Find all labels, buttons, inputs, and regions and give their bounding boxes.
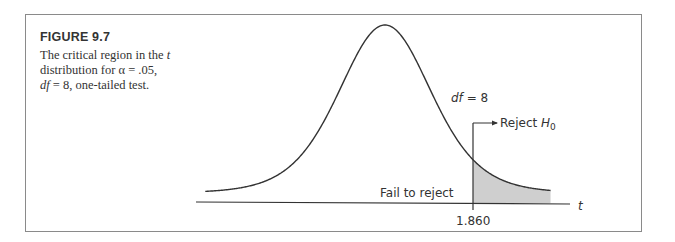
reject-h0-label: Reject H0 — [500, 116, 556, 132]
critical-value-label: 1.860 — [456, 214, 490, 228]
df-label: df = 8 — [451, 91, 488, 105]
t-distribution-chart: df = 8 Reject H0 Fail to reject 1.860 t — [0, 0, 675, 242]
fail-to-reject-label: Fail to reject — [380, 186, 454, 200]
critical-region-shade — [473, 160, 551, 203]
t-distribution-curve — [205, 25, 550, 191]
t-axis-label: t — [578, 199, 584, 213]
